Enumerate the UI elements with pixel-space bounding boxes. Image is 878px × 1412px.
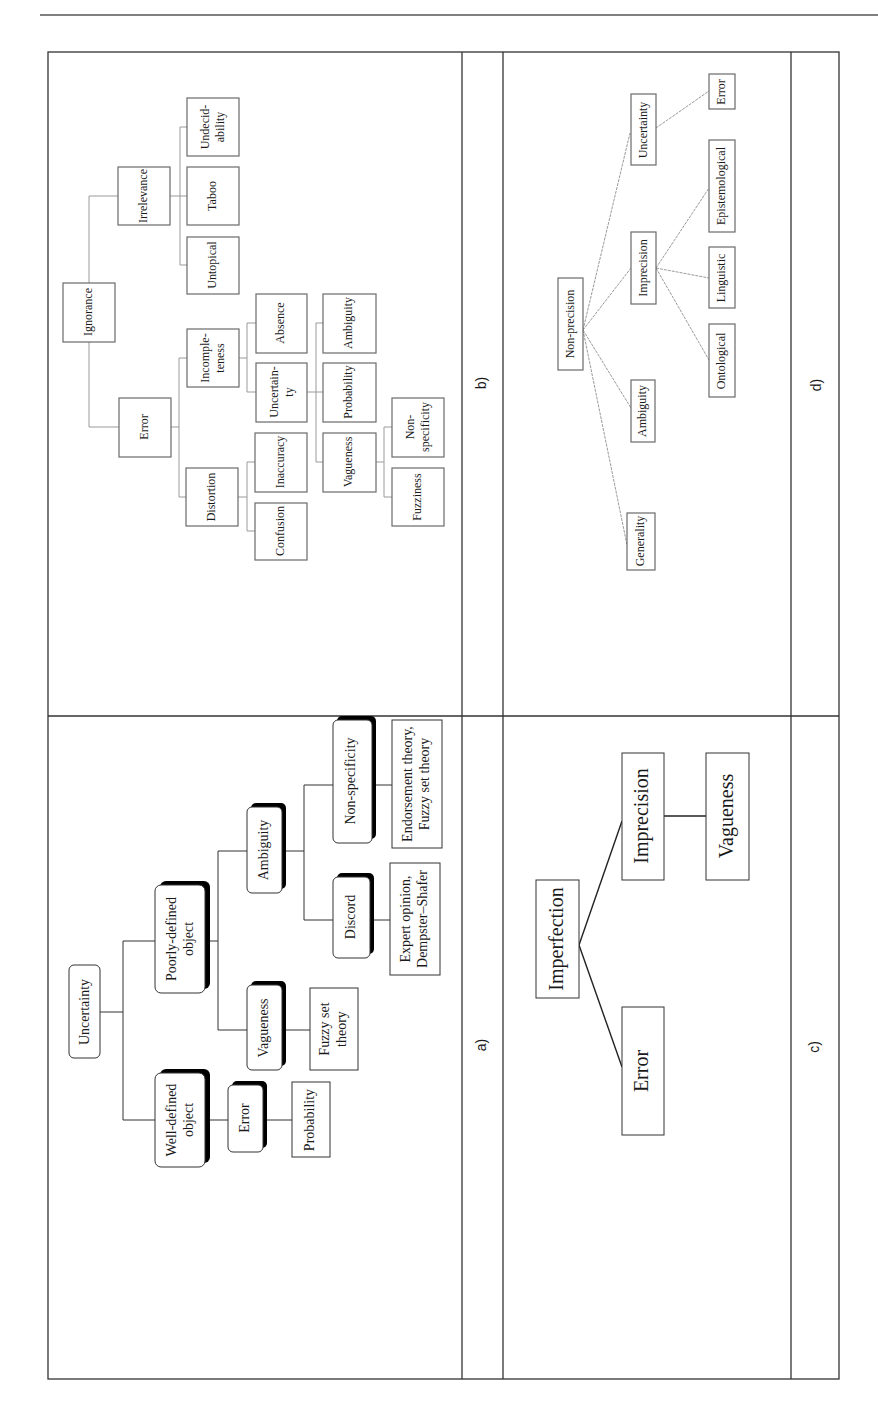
node-endorsement-fuzzy-set-theory: Endorsement theory, Fuzzy set theory <box>392 720 442 848</box>
node-non-precision: Non-precision <box>558 278 583 370</box>
node-confusion: Confusion <box>255 503 307 560</box>
svg-text:Taboo: Taboo <box>205 181 219 211</box>
svg-text:Poorly-defined: Poorly-defined <box>164 897 179 981</box>
svg-text:Undecid-: Undecid- <box>198 105 212 150</box>
node-fuzzy-set-theory: Fuzzy set theory <box>310 988 358 1070</box>
node-absence: Absence <box>256 294 307 353</box>
node-irrelevance: Irrelevance <box>118 167 170 225</box>
node-linguistic: Linguistic <box>709 247 735 308</box>
node-uncertainty: Uncertainty <box>69 965 100 1058</box>
svg-text:Vagueness: Vagueness <box>341 436 355 487</box>
svg-text:Linguistic: Linguistic <box>714 254 728 303</box>
panel-label-d: d) <box>808 379 824 391</box>
svg-text:Error: Error <box>714 79 728 104</box>
svg-text:object: object <box>181 922 196 956</box>
node-ambiguity: Ambiguity <box>631 380 655 442</box>
svg-text:Endorsement theory,: Endorsement theory, <box>400 726 415 842</box>
svg-text:Imprecision: Imprecision <box>630 768 653 864</box>
svg-text:Vagueness: Vagueness <box>715 774 738 859</box>
node-error: Error <box>709 74 735 109</box>
node-ambiguity: Ambiguity <box>323 294 376 353</box>
svg-text:Error: Error <box>630 1050 652 1093</box>
panel-c-imperfection-tree: Imperfection Error Imprecision Vagueness <box>536 753 749 1135</box>
node-uncertainty: Uncertainty <box>631 94 656 165</box>
svg-text:Vagueness: Vagueness <box>256 998 271 1057</box>
svg-text:Untopical: Untopical <box>205 241 219 289</box>
svg-text:Fuzziness: Fuzziness <box>410 473 424 521</box>
node-discord: Discord <box>333 873 374 958</box>
svg-text:Incomple-: Incomple- <box>198 333 212 382</box>
panel-d-non-precision-tree: Non-precision Generality Ambiguity Impre… <box>558 74 735 570</box>
svg-text:Ambiguity: Ambiguity <box>341 297 355 349</box>
svg-text:Well-defined: Well-defined <box>164 1084 179 1157</box>
node-error: Error <box>119 398 171 457</box>
svg-text:theory: theory <box>334 1011 349 1047</box>
node-undecidability: Undecid- ability <box>187 98 239 156</box>
node-incompleteness: Incomple- teness <box>187 329 239 387</box>
node-taboo: Taboo <box>187 167 239 225</box>
svg-text:Expert opinion,: Expert opinion, <box>398 875 413 962</box>
node-ontological: Ontological <box>709 324 735 397</box>
node-probability: Probability <box>292 1082 330 1157</box>
svg-text:Distortion: Distortion <box>204 473 218 522</box>
node-vagueness: Vagueness <box>323 433 376 492</box>
svg-text:Non-specificity: Non-specificity <box>343 737 358 824</box>
svg-text:Ignorance: Ignorance <box>81 288 95 336</box>
node-non-specificity: Non- specificity <box>392 398 444 457</box>
node-error: Error <box>228 1081 267 1152</box>
svg-text:Discord: Discord <box>343 895 358 939</box>
node-imprecision: Imprecision <box>631 232 656 304</box>
svg-text:Confusion: Confusion <box>273 506 287 556</box>
node-vagueness: Vagueness <box>706 753 749 880</box>
svg-text:Irrelevance: Irrelevance <box>136 169 150 223</box>
svg-text:object: object <box>181 1103 196 1137</box>
svg-text:Inaccuracy: Inaccuracy <box>273 436 287 489</box>
panel-b-ignorance-tree: Ignorance Irrelevance Error Untopical Ta… <box>63 98 444 560</box>
svg-text:Imperfection: Imperfection <box>545 887 568 990</box>
node-well-defined-object: Well-defined object <box>155 1069 210 1167</box>
svg-text:Fuzzy set: Fuzzy set <box>317 1002 332 1055</box>
node-distortion: Distortion <box>186 468 238 526</box>
panel-a-uncertainty-tree: Uncertainty Well-defined object Poorly-d… <box>69 716 442 1167</box>
svg-text:ability: ability <box>213 112 227 143</box>
node-epistemological: Epistemological <box>709 140 735 232</box>
svg-text:ty: ty <box>282 387 296 396</box>
node-error: Error <box>622 1007 664 1135</box>
node-untopical: Untopical <box>187 237 239 294</box>
svg-text:Error: Error <box>237 1103 252 1133</box>
svg-text:Fuzzy set theory: Fuzzy set theory <box>417 738 432 831</box>
node-imprecision: Imprecision <box>622 753 664 880</box>
node-ambiguity: Ambiguity <box>247 803 286 893</box>
svg-text:Uncertain-: Uncertain- <box>267 366 281 417</box>
node-inaccuracy: Inaccuracy <box>255 433 307 492</box>
svg-text:Uncertainty: Uncertainty <box>77 979 92 1045</box>
svg-text:Imprecision: Imprecision <box>636 239 650 296</box>
node-ignorance: Ignorance <box>63 283 115 342</box>
panel-label-a: a) <box>473 1039 489 1051</box>
svg-text:Probability: Probability <box>341 365 355 418</box>
svg-text:Probability: Probability <box>302 1089 317 1151</box>
svg-text:specificity: specificity <box>418 402 432 452</box>
svg-text:Ambiguity: Ambiguity <box>256 820 271 881</box>
node-vagueness: Vagueness <box>247 981 286 1070</box>
panel-label-b: b) <box>473 377 489 389</box>
node-probability: Probability <box>323 363 376 422</box>
svg-text:Ambiguity: Ambiguity <box>635 385 649 437</box>
node-generality: Generality <box>627 513 655 570</box>
node-poorly-defined-object: Poorly-defined object <box>155 881 210 993</box>
svg-text:Absence: Absence <box>273 302 287 343</box>
svg-text:Ontological: Ontological <box>714 332 728 389</box>
svg-text:teness: teness <box>213 343 227 373</box>
node-imperfection: Imperfection <box>536 880 579 998</box>
node-fuzziness: Fuzziness <box>392 468 444 526</box>
svg-text:Epistemological: Epistemological <box>714 146 728 225</box>
svg-text:Generality: Generality <box>633 516 647 567</box>
svg-text:Non-precision: Non-precision <box>563 290 577 359</box>
node-expert-opinion-dempster-shafer: Expert opinion, Dempster–Shafer <box>390 863 440 975</box>
panel-label-c: c) <box>806 1041 822 1053</box>
svg-text:Uncertainty: Uncertainty <box>636 102 650 159</box>
node-non-specificity: Non-specificity <box>333 716 376 843</box>
svg-text:Dempster–Shafer: Dempster–Shafer <box>415 870 430 968</box>
svg-text:Non-: Non- <box>403 415 417 440</box>
svg-text:Error: Error <box>137 414 151 439</box>
